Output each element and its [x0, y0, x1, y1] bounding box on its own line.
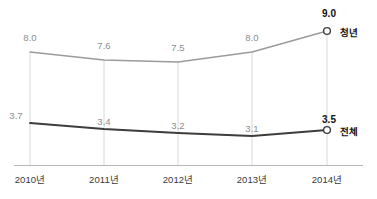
series-line-total: [30, 123, 330, 136]
line-chart: 8.0 7.6 7.5 8.0 9.0 3.7 3.4 3.2 3.1 3.5 …: [0, 0, 377, 199]
series-line-youth: [30, 28, 330, 62]
chart-canvas: [0, 0, 377, 199]
series-end-marker-youth: [324, 28, 331, 35]
series-end-marker-total: [324, 127, 331, 134]
gridlines: [30, 31, 327, 165]
